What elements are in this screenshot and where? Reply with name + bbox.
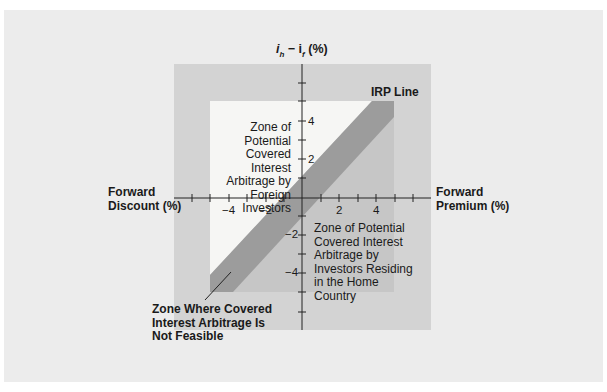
- x-tick-2: 2: [336, 204, 342, 216]
- not-feasible-zone-label: Zone Where CoveredInterest Arbitrage IsN…: [152, 303, 272, 344]
- y-tick-4: 4: [308, 115, 314, 127]
- x-tick-4: 4: [373, 204, 379, 216]
- forward-premium-label: ForwardPremium (%): [436, 186, 509, 213]
- x-tick-minus4: −4: [222, 204, 235, 216]
- y-tick-minus2: −2: [285, 228, 298, 240]
- irp-line-label: IRP Line: [371, 86, 419, 100]
- forward-discount-label: ForwardDiscount (%): [108, 186, 181, 213]
- y-axis-label: ih − if (%): [276, 43, 328, 61]
- home-investors-zone-label: Zone of PotentialCovered InterestArbitra…: [314, 222, 413, 303]
- y-tick-2: 2: [308, 153, 314, 165]
- foreign-investors-zone-label: Zone of PotentialCovered InterestArbitra…: [212, 121, 291, 216]
- y-tick-minus4: −4: [285, 266, 298, 278]
- x-tick-minus2: −2: [259, 204, 272, 216]
